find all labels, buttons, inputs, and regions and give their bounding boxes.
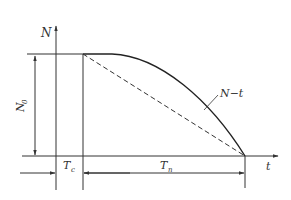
curve-label: N−t xyxy=(219,87,244,100)
svg-text:c: c xyxy=(71,166,75,174)
tn-label: T n xyxy=(160,159,173,174)
x-axis-label: t xyxy=(266,160,271,173)
svg-text:0: 0 xyxy=(21,99,29,104)
linear-dashed-line xyxy=(83,54,245,156)
y-axis-label: N xyxy=(40,26,52,40)
tc-label: T c xyxy=(63,159,75,174)
n0-label: N 0 xyxy=(14,99,29,113)
curve-label-leader xyxy=(204,95,218,110)
svg-text:n: n xyxy=(168,166,173,174)
n-t-diagram: N t N−t N 0 T c T n xyxy=(0,0,291,200)
